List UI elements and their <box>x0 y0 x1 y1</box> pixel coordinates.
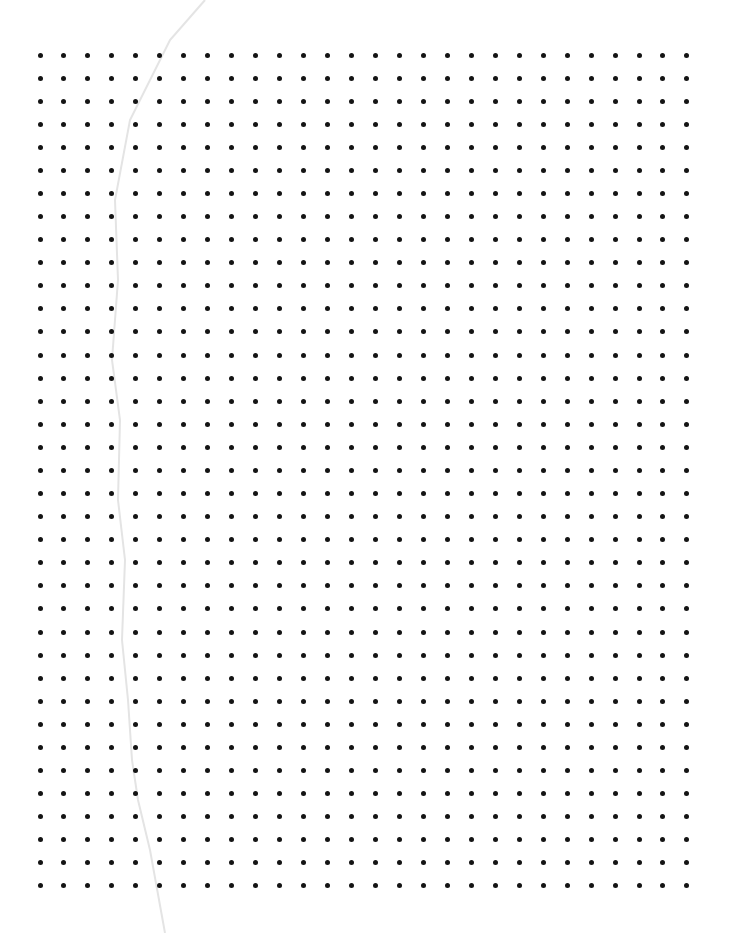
grid-dot <box>565 76 570 81</box>
grid-dot <box>38 283 43 288</box>
grid-dot <box>541 722 546 727</box>
grid-dot <box>38 353 43 358</box>
grid-dot <box>637 445 642 450</box>
grid-dot <box>684 676 689 681</box>
grid-dot <box>421 445 426 450</box>
grid-dot <box>38 145 43 150</box>
grid-dot <box>637 122 642 127</box>
grid-dot <box>253 53 258 58</box>
grid-dot <box>61 699 66 704</box>
grid-dot <box>349 353 354 358</box>
grid-dot <box>469 676 474 681</box>
grid-dot <box>421 676 426 681</box>
grid-dot <box>660 399 665 404</box>
grid-dot <box>61 422 66 427</box>
grid-dot <box>349 399 354 404</box>
grid-dot <box>373 491 378 496</box>
grid-dot <box>229 883 234 888</box>
grid-dot <box>613 745 618 750</box>
grid-dot <box>445 537 450 542</box>
grid-dot <box>38 99 43 104</box>
grid-dot <box>38 676 43 681</box>
grid-dot <box>253 399 258 404</box>
grid-dot <box>373 791 378 796</box>
grid-dot <box>229 122 234 127</box>
grid-dot <box>637 699 642 704</box>
grid-dot <box>133 283 138 288</box>
grid-dot <box>38 422 43 427</box>
grid-dot <box>421 76 426 81</box>
grid-dot <box>38 653 43 658</box>
grid-dot <box>493 745 498 750</box>
grid-dot <box>109 583 114 588</box>
grid-dot <box>445 653 450 658</box>
grid-dot <box>565 768 570 773</box>
grid-dot <box>613 791 618 796</box>
grid-dot <box>301 491 306 496</box>
grid-dot <box>61 122 66 127</box>
grid-dot <box>133 514 138 519</box>
grid-dot <box>181 329 186 334</box>
grid-dot <box>421 583 426 588</box>
grid-dot <box>565 468 570 473</box>
grid-dot <box>421 560 426 565</box>
grid-dot <box>349 376 354 381</box>
grid-dot <box>325 814 330 819</box>
grid-dot <box>133 722 138 727</box>
grid-dot <box>565 306 570 311</box>
grid-dot <box>157 399 162 404</box>
grid-dot <box>397 676 402 681</box>
grid-dot <box>684 329 689 334</box>
grid-dot <box>277 306 282 311</box>
grid-dot <box>181 283 186 288</box>
grid-dot <box>637 514 642 519</box>
grid-dot <box>589 191 594 196</box>
grid-dot <box>517 883 522 888</box>
grid-dot <box>85 376 90 381</box>
grid-dot <box>157 768 162 773</box>
grid-dot <box>613 53 618 58</box>
grid-dot <box>517 145 522 150</box>
grid-dot <box>349 468 354 473</box>
grid-dot <box>181 768 186 773</box>
grid-dot <box>61 376 66 381</box>
grid-dot <box>565 676 570 681</box>
grid-dot <box>397 768 402 773</box>
grid-dot <box>397 53 402 58</box>
grid-dot <box>325 883 330 888</box>
grid-dot <box>277 168 282 173</box>
grid-dot <box>277 606 282 611</box>
grid-dot <box>301 699 306 704</box>
grid-dot <box>325 653 330 658</box>
grid-dot <box>373 306 378 311</box>
grid-dot <box>61 214 66 219</box>
grid-dot <box>541 99 546 104</box>
grid-dot <box>445 883 450 888</box>
grid-dot <box>517 445 522 450</box>
grid-dot <box>85 722 90 727</box>
grid-dot <box>373 514 378 519</box>
grid-dot <box>181 860 186 865</box>
grid-dot <box>85 145 90 150</box>
grid-dot <box>469 814 474 819</box>
grid-dot <box>445 791 450 796</box>
grid-dot <box>205 122 210 127</box>
grid-dot <box>133 630 138 635</box>
grid-dot <box>61 283 66 288</box>
grid-dot <box>541 53 546 58</box>
grid-dot <box>421 514 426 519</box>
grid-dot <box>421 745 426 750</box>
grid-dot <box>277 583 282 588</box>
grid-dot <box>85 583 90 588</box>
grid-dot <box>421 122 426 127</box>
grid-dot <box>517 583 522 588</box>
grid-dot <box>541 168 546 173</box>
grid-dot <box>397 306 402 311</box>
grid-dot <box>157 306 162 311</box>
grid-dot <box>301 237 306 242</box>
grid-dot <box>493 122 498 127</box>
grid-dot <box>133 422 138 427</box>
grid-dot <box>109 191 114 196</box>
grid-dot <box>445 514 450 519</box>
grid-dot <box>181 699 186 704</box>
